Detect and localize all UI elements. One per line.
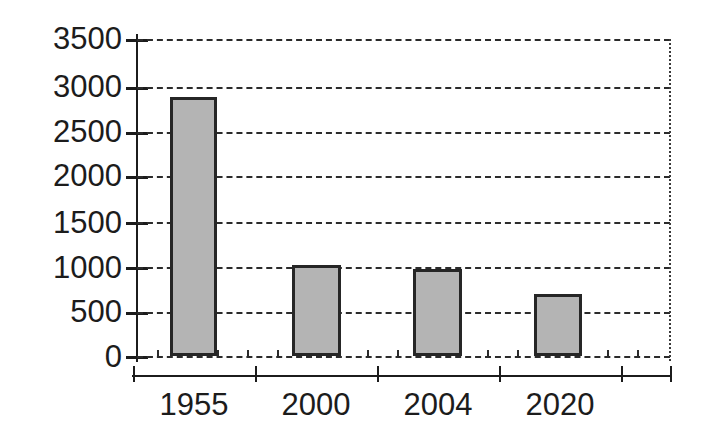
- bar-2020[interactable]: [534, 294, 582, 356]
- plot-right-boundary: [669, 39, 671, 361]
- baseline-hash: [217, 350, 219, 357]
- baseline-hash: [277, 350, 279, 357]
- baseline-hash: [397, 350, 399, 357]
- y-tick-label-0: 0: [4, 341, 122, 372]
- gridline-3500: [137, 39, 670, 41]
- baseline-hash: [517, 350, 519, 357]
- x-tick-mark-0: [133, 366, 135, 382]
- x-tick-mark-1: [255, 366, 257, 382]
- plot-area: [137, 39, 670, 357]
- baseline-hash: [157, 350, 159, 357]
- x-tick-mark-3: [499, 366, 501, 382]
- y-tick-label-3000: 3000: [4, 71, 122, 102]
- x-tick-label-2000: 2000: [254, 388, 378, 422]
- x-tick-mark-2: [377, 366, 379, 382]
- gridline-3000: [137, 87, 670, 89]
- y-tick-label-500: 500: [4, 296, 122, 327]
- baseline-hash: [607, 350, 609, 357]
- y-tick-label-2000: 2000: [4, 160, 122, 191]
- y-axis-tick-labels: 3500 3000 2500 2000 1500 1000 500 0: [0, 0, 122, 436]
- baseline-hash: [247, 350, 249, 357]
- y-tick-label-3500: 3500: [4, 23, 122, 54]
- x-tick-label-1955: 1955: [132, 388, 256, 422]
- y-tick-label-1000: 1000: [4, 252, 122, 283]
- baseline-hash: [367, 350, 369, 357]
- bar-chart: 3500 3000 2500 2000 1500 1000 500 0: [0, 0, 705, 436]
- x-tick-label-2020: 2020: [498, 388, 622, 422]
- x-tick-mark-4: [621, 366, 623, 382]
- bar-2004[interactable]: [413, 269, 462, 356]
- x-tick-mark-5: [670, 366, 672, 382]
- baseline-hash: [637, 350, 639, 357]
- x-tick-label-2004: 2004: [376, 388, 500, 422]
- x-axis-line: [132, 375, 672, 377]
- y-tick-label-1500: 1500: [4, 207, 122, 238]
- y-tick-label-2500: 2500: [4, 116, 122, 147]
- bar-2000[interactable]: [292, 265, 341, 356]
- bar-1955[interactable]: [170, 97, 217, 356]
- baseline-hash: [487, 350, 489, 357]
